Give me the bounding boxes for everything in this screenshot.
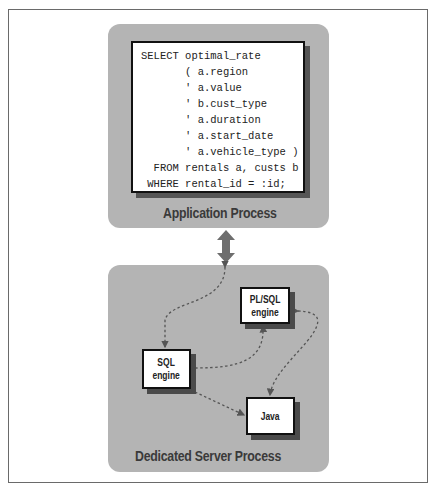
java-engine-label: Java: [261, 410, 280, 423]
double-arrow-icon: [217, 230, 235, 263]
server-process-title: Dedicated Server Process: [135, 448, 281, 464]
connection-arrows: [0, 0, 437, 492]
sql-engine-box: SQL engine: [142, 349, 191, 389]
sql-engine-label-line1: SQL: [153, 356, 180, 369]
plsql-engine-label-line1: PL/SQL: [250, 293, 281, 306]
sql-engine-label-line2: engine: [153, 369, 180, 382]
plsql-engine-box: PL/SQL engine: [240, 287, 290, 324]
plsql-engine-label-line2: engine: [250, 306, 281, 319]
java-engine-box: Java: [246, 397, 295, 435]
